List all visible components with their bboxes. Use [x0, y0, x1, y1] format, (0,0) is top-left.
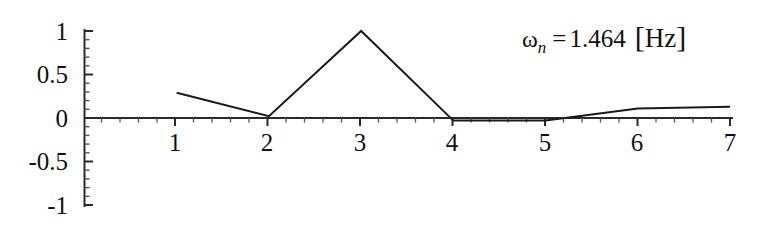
x-tick-label-6: 6 — [621, 130, 653, 155]
natural-frequency-value: 1.464 — [569, 25, 625, 52]
x-tick-label-4: 4 — [436, 130, 468, 155]
y-tick-label-1: 1 — [28, 19, 68, 44]
y-tick-label-0: 0 — [28, 106, 68, 131]
x-tick-label-3: 3 — [344, 130, 376, 155]
mode-shape-chart: 1 0.5 0 -0.5 -1 1 2 3 4 5 6 7 ωn=1.464[H… — [0, 0, 772, 237]
unit-label: Hz — [645, 23, 676, 53]
x-tick-label-5: 5 — [529, 130, 561, 155]
unit-group: [Hz] — [635, 23, 686, 53]
x-tick-label-2: 2 — [251, 130, 283, 155]
y-tick-label-neg1: -1 — [14, 193, 68, 218]
x-tick-label-1: 1 — [159, 130, 191, 155]
y-tick-label-neg0p5: -0.5 — [2, 149, 68, 174]
equals-sign: = — [552, 25, 566, 52]
x-tick-label-7: 7 — [714, 130, 746, 155]
y-tick-label-0p5: 0.5 — [10, 62, 68, 87]
omega-symbol: ω — [522, 26, 538, 52]
bracket-close-icon: ] — [676, 20, 686, 53]
natural-frequency-annotation: ωn=1.464[Hz] — [522, 22, 686, 56]
bracket-open-icon: [ — [635, 20, 645, 53]
omega-subscript: n — [538, 38, 547, 57]
